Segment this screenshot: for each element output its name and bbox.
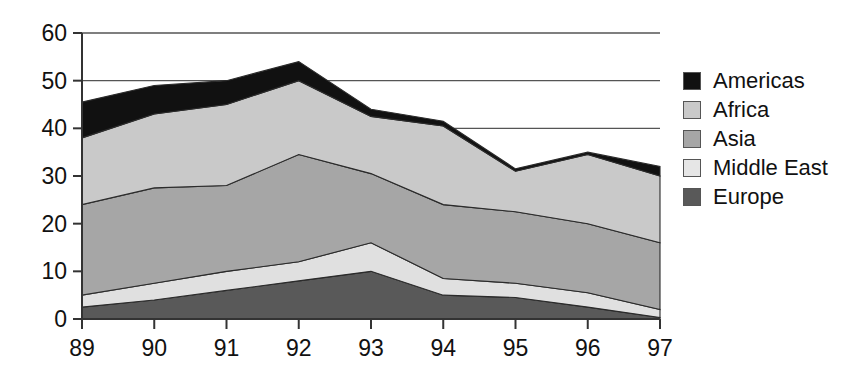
legend-swatch-europe <box>683 188 701 206</box>
svg-text:96: 96 <box>575 335 601 361</box>
legend-item-europe: Europe <box>683 184 858 210</box>
chart-root: 0102030405060 899091929394959697 America… <box>0 0 862 385</box>
legend-label-europe: Europe <box>713 186 784 208</box>
legend-label-middle-east: Middle East <box>713 157 828 179</box>
svg-text:30: 30 <box>41 163 67 189</box>
svg-text:91: 91 <box>214 335 240 361</box>
svg-text:0: 0 <box>54 306 67 332</box>
x-axis-tick-labels: 899091929394959697 <box>69 335 673 361</box>
legend-swatch-americas <box>683 72 701 90</box>
svg-text:92: 92 <box>286 335 312 361</box>
legend-item-americas: Americas <box>683 68 858 94</box>
legend-label-asia: Asia <box>713 128 756 150</box>
svg-text:93: 93 <box>358 335 384 361</box>
legend-swatch-asia <box>683 130 701 148</box>
legend: Americas Africa Asia Middle East Europe <box>683 68 858 213</box>
svg-text:89: 89 <box>69 335 95 361</box>
legend-swatch-middle-east <box>683 159 701 177</box>
svg-text:40: 40 <box>41 115 67 141</box>
legend-label-africa: Africa <box>713 99 769 121</box>
svg-text:90: 90 <box>141 335 167 361</box>
area-series-group <box>82 62 660 319</box>
svg-text:95: 95 <box>503 335 529 361</box>
plot-area: 0102030405060 899091929394959697 <box>0 0 680 385</box>
svg-text:10: 10 <box>41 258 67 284</box>
legend-item-africa: Africa <box>683 97 858 123</box>
svg-text:97: 97 <box>647 335 673 361</box>
svg-text:50: 50 <box>41 68 67 94</box>
x-axis-ticks <box>82 319 660 329</box>
svg-text:60: 60 <box>41 20 67 46</box>
stacked-area-chart: 0102030405060 899091929394959697 <box>0 0 680 385</box>
legend-item-middle-east: Middle East <box>683 155 858 181</box>
legend-swatch-africa <box>683 101 701 119</box>
svg-text:94: 94 <box>430 335 456 361</box>
legend-label-americas: Americas <box>713 70 805 92</box>
legend-item-asia: Asia <box>683 126 858 152</box>
y-axis-tick-labels: 0102030405060 <box>41 20 67 332</box>
y-axis-ticks <box>73 33 82 319</box>
svg-text:20: 20 <box>41 211 67 237</box>
